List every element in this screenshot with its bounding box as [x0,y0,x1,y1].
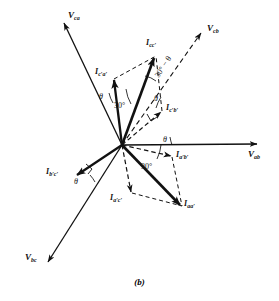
angle-label-thirty-lower: 30° [141,156,152,172]
label-i-a-c: Ia′c′ [110,194,122,202]
vector-v-bc [48,145,122,262]
label-i-cc: Icc′ [146,39,156,47]
arc-theta-upper-left [109,93,113,103]
angle-label-thirty-upper: 30° [114,95,125,111]
label-i-c-b: Ic′b′ [166,104,178,112]
vector-v-cb [122,33,201,145]
phasor-vector-canvas [0,0,279,301]
arc-thirty-lower [157,145,161,159]
angle-label-theta-upper-left: θ [99,93,103,101]
label-v-ab: Vab [248,150,260,159]
arc-thirty-upper [126,89,131,104]
arc-theta-right-lower [170,137,172,145]
figure-caption: (b) [0,277,279,287]
vector-i-b-c [77,145,122,175]
vector-i-cc [122,58,154,145]
angle-label-theta-lower-left: θ [74,178,78,186]
label-i-a-b: Ia′b′ [176,151,189,159]
right-angle-icb [147,114,157,121]
phasor-diagram-figure: Vca Vcb Vab Vbc Icc′ Ic′a′ Ic′b′ Iaa′ Ia… [0,0,279,301]
angle-label-theta-right-lower: θ [163,136,167,144]
label-i-b-c: Ib′c′ [46,168,58,176]
label-i-aa: Iaa′ [184,200,195,208]
label-v-cb: Vcb [207,24,219,33]
parallelogram-construction-lines [114,56,182,206]
label-v-bc: Vbc [25,253,37,262]
line-current-phasors [122,58,180,205]
vector-i-aa [122,145,180,205]
label-i-c-a: Ic′a′ [95,68,107,76]
arc-theta-lower-left [90,175,95,182]
label-v-ca: Vca [68,11,80,20]
vector-v-ab [122,144,257,145]
vector-v-ca [64,23,122,145]
angle-label-theta-right-upper: θ [154,95,158,103]
